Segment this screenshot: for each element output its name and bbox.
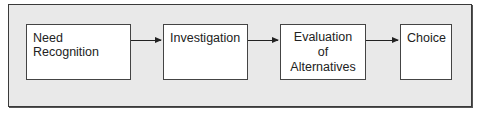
step-label: Need Recognition [33, 31, 99, 59]
step-label: Choice [407, 31, 446, 45]
step-label: Investigation [170, 31, 240, 45]
step-label-line: of [281, 45, 365, 60]
arrow-3 [366, 40, 398, 41]
step-need-recognition: Need Recognition [26, 24, 131, 80]
arrow-2 [248, 40, 278, 41]
step-choice: Choice [400, 24, 452, 80]
step-investigation: Investigation [163, 24, 248, 80]
arrow-1 [131, 40, 161, 41]
step-label-line: Evaluation [281, 30, 365, 45]
step-label-line: Alternatives [281, 60, 365, 75]
step-evaluation-of-alternatives: Evaluation of Alternatives [280, 24, 366, 80]
